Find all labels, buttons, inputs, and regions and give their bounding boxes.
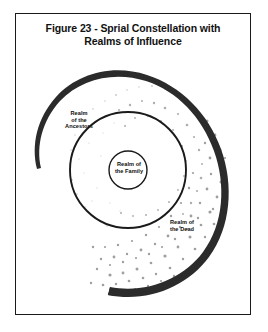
realm-ancestors-line-1: Realm xyxy=(56,110,102,117)
realm-family-line-2: the Family xyxy=(104,168,154,175)
realm-dead-line-1: Realm of xyxy=(158,219,206,226)
realm-label-dead: Realm of the Dead xyxy=(158,219,206,232)
realm-family-line-1: Realm of xyxy=(104,161,154,168)
realm-label-family: Realm of the Family xyxy=(104,161,154,174)
realm-ancestors-line-2: of the xyxy=(56,117,102,124)
realm-ancestors-line-3: Ancestors xyxy=(56,123,102,130)
figure-page: Figure 23 - Sprial Constellation with Re… xyxy=(0,0,268,332)
realm-dead-line-2: the Dead xyxy=(158,226,206,233)
realm-label-ancestors: Realm of the Ancestors xyxy=(56,110,102,130)
outer-spiral-arm xyxy=(35,70,229,297)
